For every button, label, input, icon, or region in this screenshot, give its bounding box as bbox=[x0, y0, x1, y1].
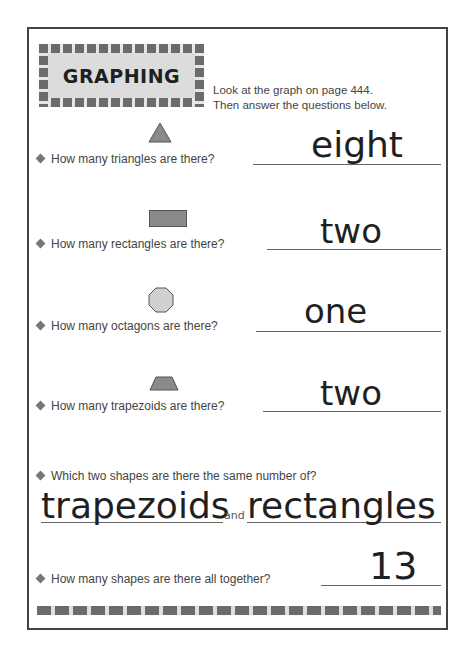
diamond-bullet-icon bbox=[36, 401, 46, 411]
question-octagons: How many octagons are there? bbox=[37, 319, 218, 333]
diamond-bullet-icon bbox=[36, 239, 46, 249]
header-border-left bbox=[39, 44, 48, 107]
answer-rectangles: two bbox=[320, 211, 382, 251]
rectangle-icon bbox=[149, 210, 187, 227]
question-rectangles: How many rectangles are there? bbox=[37, 237, 224, 251]
graphing-header-box: GRAPHING bbox=[39, 44, 204, 107]
diamond-bullet-icon bbox=[36, 154, 46, 164]
instruction-line-2: Then answer the questions below. bbox=[213, 98, 387, 113]
diamond-bullet-icon bbox=[36, 471, 46, 481]
instruction-line-1: Look at the graph on page 444. bbox=[213, 83, 387, 98]
connector-and: and bbox=[224, 509, 245, 522]
trapezoid-icon bbox=[149, 376, 179, 391]
answer-shape-a: trapezoids bbox=[41, 485, 230, 526]
answer-octagons: one bbox=[304, 291, 367, 331]
question-triangles: How many triangles are there? bbox=[37, 152, 214, 166]
triangle-icon bbox=[148, 122, 172, 143]
header-border-right bbox=[195, 44, 204, 107]
question-same-number: Which two shapes are there the same numb… bbox=[37, 469, 316, 483]
octagon-icon bbox=[148, 287, 174, 313]
header-inner: GRAPHING bbox=[48, 53, 195, 98]
decorative-border-strip bbox=[37, 606, 441, 615]
diamond-bullet-icon bbox=[36, 321, 46, 331]
header-border-top bbox=[39, 44, 204, 53]
answer-shape-b: rectangles bbox=[247, 485, 436, 526]
answer-line-octagons bbox=[256, 331, 441, 332]
answer-triangles: eight bbox=[311, 124, 403, 165]
instructions: Look at the graph on page 444. Then answ… bbox=[213, 83, 387, 113]
diamond-bullet-icon bbox=[36, 574, 46, 584]
page-title: GRAPHING bbox=[63, 65, 180, 87]
question-trapezoids: How many trapezoids are there? bbox=[37, 399, 224, 413]
worksheet-page: GRAPHING Look at the graph on page 444. … bbox=[27, 27, 448, 630]
answer-total: 13 bbox=[369, 544, 417, 588]
header-border-bottom bbox=[39, 98, 204, 107]
question-total-shapes: How many shapes are there all together? bbox=[37, 572, 270, 586]
answer-trapezoids: two bbox=[320, 373, 382, 413]
